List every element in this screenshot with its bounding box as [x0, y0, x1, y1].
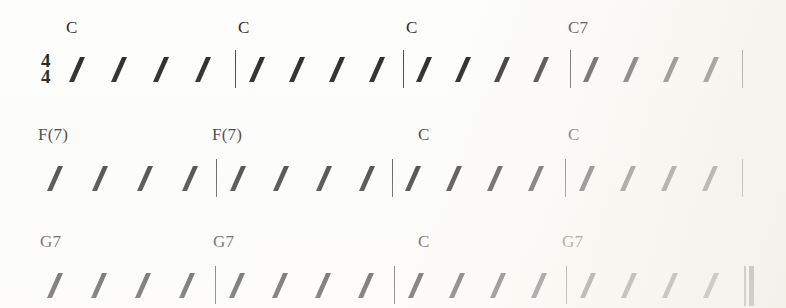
rhythm-slash — [618, 270, 640, 300]
rhythm-slash — [528, 270, 550, 300]
rhythm-slash — [525, 163, 547, 193]
rhythm-slash — [484, 163, 506, 193]
rhythm-slash — [620, 54, 642, 84]
rhythm-slash — [269, 270, 291, 300]
rhythm-slash — [44, 163, 66, 193]
rhythm-slash — [134, 163, 156, 193]
barline — [394, 266, 395, 304]
rhythm-slash — [659, 270, 681, 300]
rhythm-slash — [246, 54, 268, 84]
chord-symbol: G7 — [562, 232, 583, 252]
chord-symbol: C — [66, 18, 78, 38]
chord-symbol: C — [418, 125, 430, 145]
final-barline-thin — [744, 266, 746, 306]
rhythm-slash — [88, 270, 110, 300]
chord-symbol: C — [568, 125, 580, 145]
final-barline-thick — [749, 266, 754, 306]
chord-symbol: F(7) — [212, 125, 242, 145]
rhythm-slash — [443, 163, 465, 193]
rhythm-slash — [355, 270, 377, 300]
rhythm-slash — [491, 54, 513, 84]
barline — [392, 159, 393, 197]
rhythm-slash — [176, 270, 198, 300]
rhythm-slash — [366, 54, 388, 84]
rhythm-slash — [487, 270, 509, 300]
chord-symbol: G7 — [213, 232, 234, 252]
rhythm-slash — [699, 163, 721, 193]
chord-symbol: C — [406, 18, 418, 38]
final-barline — [744, 266, 754, 306]
rhythm-slash — [192, 54, 214, 84]
rhythm-slash — [577, 270, 599, 300]
staff-row-3 — [0, 264, 786, 308]
rhythm-slash — [405, 270, 427, 300]
rhythm-slash — [700, 54, 722, 84]
barline — [403, 50, 404, 88]
rhythm-slash — [660, 54, 682, 84]
time-signature: 4 4 — [41, 53, 51, 85]
rhythm-slash — [66, 54, 88, 84]
chord-chart-sheet: C C C C7 4 4 — [0, 0, 786, 308]
rhythm-slash — [179, 163, 201, 193]
rhythm-slash — [270, 163, 292, 193]
barline — [565, 159, 566, 197]
barline-end — [742, 159, 743, 197]
rhythm-slash — [108, 54, 130, 84]
rhythm-slash — [700, 270, 722, 300]
rhythm-slash — [580, 54, 602, 84]
rhythm-slash — [226, 270, 248, 300]
chord-row-3: G7 G7 C G7 — [0, 232, 786, 256]
staff-row-2 — [0, 157, 786, 205]
chord-row-2: F(7) F(7) C C — [0, 125, 786, 149]
rhythm-slash — [89, 163, 111, 193]
barline — [566, 266, 567, 304]
rhythm-slash — [452, 54, 474, 84]
rhythm-slash — [286, 54, 308, 84]
chord-symbol: G7 — [40, 232, 61, 252]
barline — [216, 159, 217, 197]
rhythm-slash — [132, 270, 154, 300]
staff-row-1: 4 4 — [0, 48, 786, 96]
time-signature-denominator: 4 — [41, 69, 51, 85]
paper-texture — [0, 0, 786, 308]
rhythm-slash — [227, 163, 249, 193]
rhythm-slash — [530, 54, 552, 84]
barline — [215, 266, 216, 304]
rhythm-slash — [312, 270, 334, 300]
rhythm-slash — [402, 163, 424, 193]
barline — [235, 50, 236, 88]
barline-end — [742, 50, 743, 88]
rhythm-slash — [44, 270, 66, 300]
chord-symbol: C — [238, 18, 250, 38]
rhythm-slash — [313, 163, 335, 193]
rhythm-slash — [413, 54, 435, 84]
chord-symbol: C — [418, 232, 430, 252]
chord-symbol: F(7) — [38, 125, 68, 145]
rhythm-slash — [150, 54, 172, 84]
barline — [570, 50, 571, 88]
rhythm-slash — [576, 163, 598, 193]
chord-row-1: C C C C7 — [0, 18, 786, 42]
rhythm-slash — [658, 163, 680, 193]
rhythm-slash — [326, 54, 348, 84]
rhythm-slash — [356, 163, 378, 193]
rhythm-slash — [617, 163, 639, 193]
rhythm-slash — [446, 270, 468, 300]
chord-symbol: C7 — [568, 18, 588, 38]
